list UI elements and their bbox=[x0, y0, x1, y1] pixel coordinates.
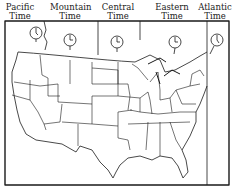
canada-border bbox=[18, 52, 207, 72]
clock-icon-central bbox=[111, 36, 123, 52]
east-coast bbox=[182, 86, 207, 150]
clocks bbox=[30, 27, 223, 54]
clock-icon-mountain bbox=[64, 34, 76, 50]
great-lakes bbox=[148, 58, 180, 84]
southern-border bbox=[36, 140, 188, 178]
zone-divider-pacific-mountain bbox=[44, 21, 47, 50]
clock-icon-pacific bbox=[30, 27, 42, 42]
clock-icon-atlantic bbox=[210, 34, 223, 54]
us-time-zone-map bbox=[0, 0, 233, 188]
clock-icon-eastern bbox=[169, 36, 181, 54]
